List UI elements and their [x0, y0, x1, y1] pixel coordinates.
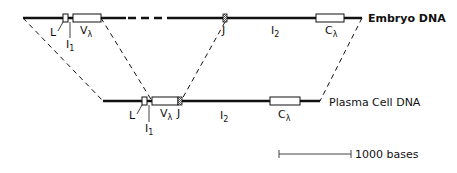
embryo-l-label: L — [50, 26, 57, 39]
plasma-v-label: Vλ — [160, 107, 173, 122]
plasma-i1-label: I1 — [145, 122, 153, 137]
plasma-v-exon — [152, 97, 178, 105]
embryo-dna-strand: L I1 Vλ J I2 Cλ Embryo DNA — [23, 12, 446, 53]
plasma-j-label: J — [176, 107, 180, 120]
plasma-c-exon — [270, 97, 300, 105]
diagram-canvas: L I1 Vλ J I2 Cλ Embryo DNA L I1 Vλ J I2 … — [0, 0, 457, 173]
rearrangement-connectors — [23, 18, 362, 101]
embryo-i1-label: I1 — [66, 38, 74, 53]
gene-rearrangement-diagram: L I1 Vλ J I2 Cλ Embryo DNA L I1 Vλ J I2 … — [0, 0, 457, 173]
embryo-j-segment — [223, 14, 227, 22]
embryo-c-exon — [316, 14, 344, 22]
embryo-c-label: Cλ — [325, 24, 338, 39]
plasma-l-label: L — [129, 109, 136, 122]
plasma-cell-dna-label: Plasma Cell DNA — [329, 96, 421, 109]
plasma-j-segment — [178, 97, 182, 105]
embryo-l-exon — [63, 14, 68, 22]
plasma-c-label: Cλ — [278, 108, 291, 123]
embryo-i2-label: I2 — [271, 24, 279, 39]
embryo-dna-label: Embryo DNA — [368, 12, 446, 25]
embryo-v-exon — [73, 14, 101, 22]
plasma-i2-label: I2 — [220, 109, 228, 124]
embryo-v-label: Vλ — [80, 24, 93, 39]
plasma-l-exon — [142, 97, 147, 105]
scale-bar: 1000 bases — [279, 148, 419, 161]
scale-bar-label: 1000 bases — [355, 148, 419, 161]
plasma-cell-dna-strand: L I1 Vλ J I2 Cλ Plasma Cell DNA — [103, 96, 421, 137]
